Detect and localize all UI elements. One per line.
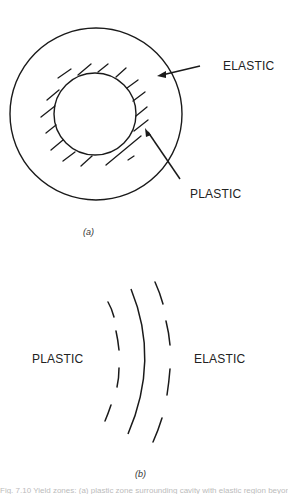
plastic-arrow: [145, 128, 180, 179]
outer-circle-elastic-boundary: [10, 28, 182, 200]
figure-caption: Fig. 7.10 Yield zones: (a) plastic zone …: [0, 487, 288, 494]
figure-b-elastic-label: ELASTIC: [194, 352, 245, 366]
figure-b-plastic-label: PLASTIC: [32, 352, 83, 366]
inner-circle-cavity: [54, 73, 136, 155]
figure-a-elastic-label: ELASTIC: [223, 59, 274, 73]
figure-b-sublabel: (b): [135, 469, 146, 479]
figure-a-plastic-label: PLASTIC: [190, 187, 241, 201]
left-dashed-arc: [105, 302, 119, 421]
plastic-zone-hatching: [41, 64, 148, 166]
elastic-arrow: [157, 66, 200, 78]
plastic-elastic-boundary-arc: [128, 289, 145, 434]
right-dashed-arc: [153, 282, 170, 442]
figure-a-sublabel: (a): [83, 227, 94, 237]
figure-a-diagram: [0, 0, 288, 250]
